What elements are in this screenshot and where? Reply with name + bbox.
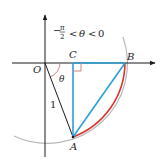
label-a: A: [69, 141, 77, 152]
less-than-2: <: [88, 28, 96, 39]
label-o: O: [33, 64, 41, 75]
label-c: C: [69, 49, 77, 60]
two-denominator: 2: [60, 33, 64, 41]
less-than-1: <: [69, 28, 77, 39]
theta-symbol: θ: [79, 28, 85, 39]
unit-circle-diagram: − π 2 < θ < 0 O C B A θ 1: [0, 0, 160, 162]
condition-label: − π 2 < θ < 0: [53, 24, 104, 41]
label-theta: θ: [59, 74, 65, 84]
pi-numerator: π: [60, 24, 65, 32]
right-angle-marker: [73, 63, 81, 71]
label-b: B: [126, 51, 134, 62]
point-a: [72, 136, 75, 139]
label-radius: 1: [50, 99, 56, 110]
zero: 0: [98, 28, 104, 39]
segment-ab: [73, 63, 125, 137]
